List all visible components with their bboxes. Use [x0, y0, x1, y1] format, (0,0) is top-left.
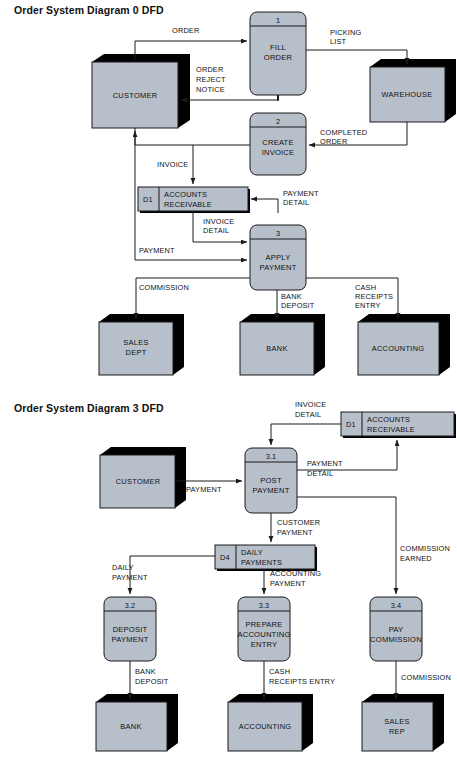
- flow-order-reject-line3: NOTICE: [196, 85, 225, 94]
- entity-bank3-label: BANK: [120, 722, 141, 731]
- data-store-d1-key: D1: [143, 195, 153, 204]
- entity-warehouse-label: WAREHOUSE: [382, 90, 433, 99]
- data-store-d1b-line2: RECEIVABLE: [367, 425, 415, 434]
- process-apply-payment-line2: PAYMENT: [260, 263, 297, 272]
- process-apply-payment-line1: APPLY: [266, 253, 291, 262]
- entity-warehouse[interactable]: WAREHOUSE: [370, 59, 456, 122]
- dfd-page: Order System Diagram 0 DFD CUSTOMER WARE…: [0, 0, 457, 759]
- process-fill-order-line1: FILL: [270, 43, 286, 52]
- flow-commission3-label: COMMISSION: [401, 673, 451, 682]
- process-post-payment-number: 3.1: [266, 452, 276, 461]
- flow-invoice-detail3-line1: INVOICE: [295, 400, 326, 409]
- process-create-invoice-line2: INVOICE: [262, 148, 295, 157]
- process-pay-commission[interactable]: 3.4 PAY COMMISSION: [370, 597, 422, 661]
- flow-invoice-label: INVOICE: [157, 160, 188, 169]
- flow-bank-deposit3-line2: DEPOSIT: [135, 677, 169, 686]
- process-deposit-payment[interactable]: 3.2 DEPOSIT PAYMENT: [104, 597, 156, 661]
- data-store-d4-line2: PAYMENTS: [241, 558, 282, 567]
- entity-customer3[interactable]: CUSTOMER: [100, 447, 186, 508]
- flow-order-reject-line1: ORDER: [196, 65, 223, 74]
- entity-accounting[interactable]: ACCOUNTING: [358, 314, 450, 375]
- diagram-3-title: Order System Diagram 3 DFD: [14, 402, 164, 414]
- flow-customer-payment-line2: PAYMENT: [277, 528, 313, 537]
- data-store-d1[interactable]: D1 ACCOUNTS RECEIVABLE: [138, 187, 250, 213]
- process-prepare-accounting-number: 3.3: [259, 601, 269, 610]
- entity-bank-label: BANK: [266, 344, 287, 353]
- data-store-d4-key: D4: [220, 553, 230, 562]
- entity-customer-label: CUSTOMER: [113, 91, 158, 100]
- entity-bank[interactable]: BANK: [240, 314, 325, 375]
- diagram-0-title: Order System Diagram 0 DFD: [14, 4, 164, 16]
- flow-commission-earned-line1: COMMISSION: [400, 544, 450, 553]
- flow-order-label: ORDER: [172, 26, 199, 35]
- flow-cash-receipts-line2: RECEIPTS: [355, 292, 393, 301]
- flow-cash-receipts3-line2: RECEIPTS ENTRY: [269, 677, 335, 686]
- entity-sales-dept-label-line1: SALES: [123, 338, 148, 347]
- flow-order-reject-line2: REJECT: [196, 75, 226, 84]
- flow-payment-label: PAYMENT: [139, 246, 175, 255]
- data-store-d1-line2: RECEIVABLE: [164, 200, 212, 209]
- flow-customer-payment-line1: CUSTOMER: [277, 518, 320, 527]
- flow-daily-payment-line1: DAILY: [112, 563, 134, 572]
- entity-sales-rep-label-line2: REP: [389, 727, 405, 736]
- process-create-invoice[interactable]: 2 CREATE INVOICE: [250, 113, 306, 175]
- flow-payment-detail3-line1: PAYMENT: [307, 459, 343, 468]
- flow-payment-detail-line2: DETAIL: [283, 198, 309, 207]
- entity-accounting-label: ACCOUNTING: [372, 344, 425, 353]
- entity-sales-dept-label-line2: DEPT: [126, 348, 147, 357]
- data-store-d1b-key: D1: [346, 420, 356, 429]
- flow-cash-receipts3-line1: CASH: [269, 667, 290, 676]
- process-pay-commission-line2: COMMISSION: [370, 635, 422, 644]
- data-store-d4[interactable]: D4 DAILY PAYMENTS: [215, 545, 317, 571]
- data-store-d1b-line1: ACCOUNTS: [367, 415, 410, 424]
- process-pay-commission-number: 3.4: [391, 601, 401, 610]
- process-apply-payment-number: 3: [276, 229, 280, 238]
- flow-accounting-payment-line2: PAYMENT: [270, 579, 306, 588]
- process-deposit-payment-number: 3.2: [125, 601, 135, 610]
- process-deposit-payment-line2: PAYMENT: [112, 635, 149, 644]
- process-prepare-accounting-line1: PREPARE: [245, 620, 282, 629]
- process-post-payment[interactable]: 3.1 POST PAYMENT: [245, 448, 297, 513]
- process-post-payment-line1: POST: [260, 476, 282, 485]
- process-fill-order[interactable]: 1 FILL ORDER: [250, 12, 306, 95]
- flow-picking-list-line1: PICKING: [330, 28, 362, 37]
- flow-commission-earned-line2: EARNED: [400, 554, 432, 563]
- flow-commission-label: COMMISSION: [139, 283, 189, 292]
- entity-customer3-label: CUSTOMER: [116, 477, 161, 486]
- data-store-d1-line1: ACCOUNTS: [164, 190, 207, 199]
- flow-payment-detail3-line2: DETAIL: [307, 469, 333, 478]
- flow-picking-list-line2: LIST: [330, 37, 347, 46]
- process-fill-order-number: 1: [276, 16, 280, 25]
- entity-sales-rep[interactable]: SALES REP: [362, 694, 444, 751]
- entity-sales-dept[interactable]: SALES DEPT: [99, 314, 184, 375]
- flow-accounting-payment-line1: ACCOUNTING: [270, 569, 321, 578]
- flow-bank-deposit-line2: DEPOSIT: [281, 301, 315, 310]
- process-deposit-payment-line1: DEPOSIT: [113, 625, 148, 634]
- flow-completed-order-line2: ORDER: [320, 137, 347, 146]
- data-store-d4-line1: DAILY: [241, 548, 263, 557]
- process-create-invoice-number: 2: [276, 117, 280, 126]
- entity-customer[interactable]: CUSTOMER: [92, 54, 190, 128]
- flow-invoice-detail3-line2: DETAIL: [295, 410, 321, 419]
- data-store-d1b[interactable]: D1 ACCOUNTS RECEIVABLE: [341, 412, 456, 438]
- process-pay-commission-line1: PAY: [389, 625, 404, 634]
- entity-accounting3-label: ACCOUNTING: [239, 722, 292, 731]
- process-create-invoice-line1: CREATE: [262, 138, 293, 147]
- process-prepare-accounting-line3: ENTRY: [251, 640, 278, 649]
- process-apply-payment[interactable]: 3 APPLY PAYMENT: [250, 225, 306, 290]
- flow-daily-payment-line2: PAYMENT: [112, 573, 148, 582]
- flow-bank-deposit3-line1: BANK: [135, 667, 156, 676]
- entity-accounting3[interactable]: ACCOUNTING: [228, 694, 313, 751]
- flow-invoice-detail-line1: INVOICE: [203, 217, 234, 226]
- process-prepare-accounting-line2: ACCOUNTING: [237, 630, 290, 639]
- process-prepare-accounting[interactable]: 3.3 PREPARE ACCOUNTING ENTRY: [237, 597, 290, 661]
- flow-invoice-detail-line2: DETAIL: [203, 226, 229, 235]
- entity-sales-rep-label-line1: SALES: [384, 717, 409, 726]
- flow-cash-receipts-line3: ENTRY: [355, 301, 381, 310]
- flow-payment-detail-line1: PAYMENT: [283, 189, 319, 198]
- flow-cash-receipts-line1: CASH: [355, 283, 376, 292]
- flow-completed-order-line1: COMPLETED: [320, 128, 367, 137]
- flow-bank-deposit-line1: BANK: [281, 292, 302, 301]
- flow-payment3-label: PAYMENT: [186, 485, 222, 494]
- entity-bank3[interactable]: BANK: [96, 694, 178, 751]
